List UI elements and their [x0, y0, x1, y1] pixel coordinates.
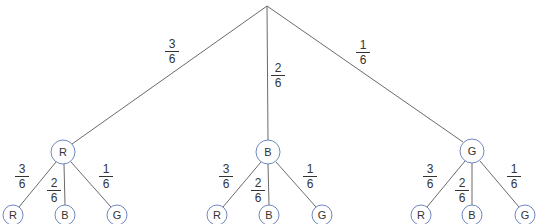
leaf-g-g: G: [515, 205, 535, 224]
denominator: 6: [99, 177, 113, 190]
prob-label-r-g: 1 6: [99, 163, 113, 190]
denominator: 6: [507, 177, 521, 190]
numerator: 2: [455, 177, 469, 191]
numerator: 3: [165, 38, 179, 52]
prob-label-r-b: 2 6: [47, 177, 61, 204]
svg-text:B: B: [61, 209, 68, 221]
node-g: G: [460, 139, 484, 163]
leaf-g-b: B: [462, 205, 482, 224]
svg-text:B: B: [468, 209, 475, 221]
node-r: R: [51, 140, 75, 164]
prob-label-root-g: 1 6: [356, 39, 370, 66]
edge-r-to-b: [64, 164, 65, 205]
leaf-b-b: B: [259, 205, 279, 224]
numerator: 1: [507, 163, 521, 177]
svg-text:R: R: [417, 209, 425, 221]
svg-text:B: B: [265, 209, 272, 221]
edge-root-to-b: [267, 6, 268, 140]
svg-text:R: R: [59, 146, 67, 158]
node-b: B: [256, 140, 280, 164]
numerator: 1: [303, 163, 317, 177]
prob-label-root-r: 3 6: [165, 38, 179, 65]
numerator: 3: [15, 163, 29, 177]
svg-text:G: G: [521, 209, 530, 221]
denominator: 6: [271, 76, 285, 89]
prob-label-b-r: 3 6: [219, 163, 233, 190]
prob-label-root-b: 2 6: [271, 62, 285, 89]
edge-root-to-g: [267, 6, 463, 142]
denominator: 6: [356, 53, 370, 66]
numerator: 1: [99, 163, 113, 177]
denominator: 6: [455, 191, 469, 204]
denominator: 6: [303, 177, 317, 190]
edge-root-to-r: [72, 6, 267, 144]
denominator: 6: [423, 177, 437, 190]
svg-text:R: R: [9, 209, 17, 221]
leaf-r-b: B: [55, 205, 75, 224]
prob-label-g-r: 3 6: [423, 163, 437, 190]
denominator: 6: [47, 191, 61, 204]
prob-label-g-b: 2 6: [455, 177, 469, 204]
numerator: 2: [271, 62, 285, 76]
numerator: 2: [251, 177, 265, 191]
numerator: 3: [423, 163, 437, 177]
svg-text:R: R: [213, 209, 221, 221]
numerator: 1: [356, 39, 370, 53]
leaf-b-r: R: [207, 205, 227, 224]
denominator: 6: [165, 52, 179, 65]
prob-label-r-r: 3 6: [15, 163, 29, 190]
denominator: 6: [251, 191, 265, 204]
leaf-r-r: R: [3, 205, 23, 224]
denominator: 6: [219, 177, 233, 190]
svg-text:G: G: [468, 145, 477, 157]
numerator: 3: [219, 163, 233, 177]
leaf-r-g: G: [107, 205, 127, 224]
svg-text:G: G: [318, 209, 327, 221]
denominator: 6: [15, 177, 29, 190]
edge-b-to-b: [268, 164, 269, 205]
prob-label-g-g: 1 6: [507, 163, 521, 190]
leaf-b-g: G: [312, 205, 332, 224]
svg-text:B: B: [264, 146, 271, 158]
numerator: 2: [47, 177, 61, 191]
prob-label-b-b: 2 6: [251, 177, 265, 204]
leaf-g-r: R: [411, 205, 431, 224]
svg-text:G: G: [113, 209, 122, 221]
prob-label-b-g: 1 6: [303, 163, 317, 190]
